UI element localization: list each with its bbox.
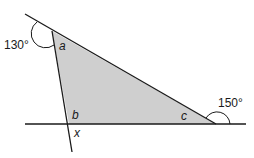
angle-label-150: 150° (218, 96, 243, 110)
triangle-diagram: 130° 150° a b c x (0, 0, 254, 158)
angle-label-130: 130° (4, 38, 29, 52)
unknown-angle-x: x (73, 126, 81, 140)
angle-arc-130 (31, 22, 54, 48)
vertex-label-b: b (72, 108, 79, 122)
vertex-label-a: a (59, 39, 66, 53)
vertex-label-c: c (181, 109, 187, 123)
